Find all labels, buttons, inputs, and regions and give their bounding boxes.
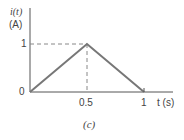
y-axis-unit: (A): [9, 20, 22, 30]
x-axis-variable: t (s): [157, 98, 174, 108]
x-tick-label-0.5: 0.5: [79, 98, 93, 108]
y-tick-label-0: 0: [19, 87, 25, 97]
y-tick-label-1: 1: [21, 39, 27, 49]
figure-caption: (c): [83, 119, 95, 129]
y-axis-variable: i(t): [10, 7, 22, 17]
x-tick-label-1: 1: [141, 98, 147, 108]
